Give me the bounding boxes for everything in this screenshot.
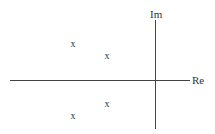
imaginary-axis [155,20,156,129]
pole-marker-4: x [71,111,76,121]
pole-marker-2: x [105,51,110,61]
imaginary-axis-label: Im [150,9,162,20]
pole-marker-3: x [105,99,110,109]
real-axis [10,80,190,81]
pole-marker-1: x [71,39,76,49]
real-axis-label: Re [192,75,204,86]
